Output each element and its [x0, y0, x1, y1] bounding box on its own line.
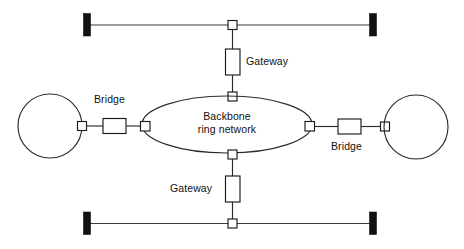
tap-connector-bus-top [228, 21, 237, 30]
bridge-left-label: Bridge [94, 93, 125, 106]
network-diagram: Gateway Bridge Backbone ring network Bri… [0, 0, 464, 249]
bus-segment-top [84, 14, 377, 37]
tap-connector-bus-bottom [228, 219, 237, 228]
right-network-group [305, 95, 448, 159]
backbone-ring-label-line2: ring network [167, 123, 287, 136]
tap-connector-ring-left [78, 122, 87, 131]
backbone-ring-label: Backbone ring network [167, 110, 287, 135]
bus-segment-bottom [84, 212, 377, 235]
gateway-bottom-box [226, 176, 241, 202]
gateway-bottom-label: Gateway [170, 182, 212, 195]
tap-connector-backbone-right [305, 122, 315, 132]
bus-terminator-top-right [370, 14, 377, 37]
bus-terminator-top-left [84, 14, 91, 37]
gateway-top-group [226, 30, 241, 102]
backbone-ring-label-line1: Backbone [167, 110, 287, 123]
tap-connector-backbone-bottom [228, 150, 237, 159]
left-network-group [18, 94, 150, 158]
bus-terminator-bottom-left [84, 212, 91, 235]
bridge-right-label: Bridge [331, 140, 362, 153]
ring-network-right [384, 95, 448, 159]
tap-connector-backbone-left [141, 122, 151, 132]
bridge-left-box [103, 119, 126, 134]
tap-connector-ring-right [381, 122, 390, 131]
ring-network-left [18, 94, 82, 158]
gateway-top-label: Gateway [246, 55, 288, 68]
bridge-right-box [338, 119, 361, 134]
gateway-bottom-group [226, 150, 241, 219]
gateway-top-box [226, 49, 241, 75]
bus-terminator-bottom-right [370, 212, 377, 235]
